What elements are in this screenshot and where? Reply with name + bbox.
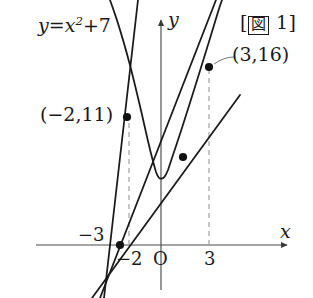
curve-equation-base: x — [65, 14, 76, 36]
leader-line-right-point — [214, 57, 234, 64]
point-marker-three-sixteen — [205, 63, 213, 71]
x-axis-label: x — [280, 222, 291, 241]
tick-label-three: 3 — [204, 250, 215, 268]
y-axis-label: y — [168, 10, 179, 29]
point-marker-midpoint — [179, 153, 187, 161]
tick-label-minus-two: −2 — [116, 250, 143, 268]
point-label-three-sixteen: (3,16) — [232, 45, 289, 64]
figure-tag-close: ] — [289, 11, 297, 33]
curve-equation-tail: +7 — [83, 14, 111, 36]
curve-equation-lhs: y — [38, 14, 49, 36]
figure-tag-number: 1 — [276, 11, 289, 33]
curve-equation-eq: = — [49, 14, 65, 36]
curve-equation-exponent: 2 — [75, 14, 83, 28]
figure-tag-kanji-box: 図 — [248, 16, 270, 35]
curve-equation-label: y=x2+7 — [38, 16, 111, 35]
origin-label: O — [153, 250, 168, 268]
tick-label-minus-three: −3 — [78, 226, 105, 244]
point-marker-minus-two-eleven — [123, 113, 131, 121]
figure-tag-open: [ — [240, 11, 248, 33]
figure-canvas: y=x2+7 [図 1] y x O (−2,11) (3,16) −3 −2 … — [0, 0, 313, 298]
figure-tag: [図 1] — [240, 13, 296, 35]
point-label-minus-two-eleven: (−2,11) — [40, 105, 113, 124]
